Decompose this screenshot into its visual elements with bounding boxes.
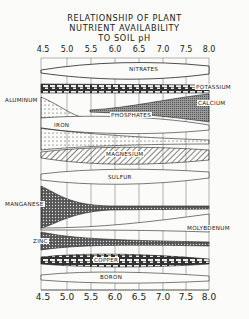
label-copper: COPPER (93, 257, 119, 263)
tick-label: 6.5 (132, 292, 146, 302)
label-molybdenum: MOLYBDENUM (186, 225, 231, 231)
band-potassium (41, 84, 209, 93)
label-sulfur: SULFUR (107, 174, 133, 180)
tick-label: 4.5 (36, 292, 50, 302)
tick-label: 5.0 (60, 292, 74, 302)
tick-label: 7.0 (156, 292, 170, 302)
tick-label: 8.0 (202, 292, 216, 302)
label-boron: BORON (99, 274, 123, 280)
band-copper (41, 254, 209, 267)
tick-label: 6.0 (108, 292, 122, 302)
band-aluminum (41, 97, 85, 118)
label-iron: IRON (53, 122, 70, 128)
label-calcium: CALCIUM (197, 100, 226, 106)
band-boron (41, 272, 209, 283)
label-nitrates: NITRATES (128, 66, 159, 72)
label-potassium: POTASSIUM (195, 84, 232, 90)
label-manganese: MANGANESE (4, 201, 45, 207)
tick-label: 7.5 (179, 292, 193, 302)
chart-plot (0, 0, 249, 319)
band-zinc (41, 232, 209, 250)
label-phosphates: PHOSPHATES (110, 112, 152, 118)
label-magnesium: MAGNESIUM (105, 151, 144, 157)
label-aluminum: ALUMINUM (4, 97, 39, 103)
label-zinc: ZINC (32, 238, 49, 244)
band-nitrates (41, 63, 209, 80)
tick-label: 5.5 (84, 292, 98, 302)
